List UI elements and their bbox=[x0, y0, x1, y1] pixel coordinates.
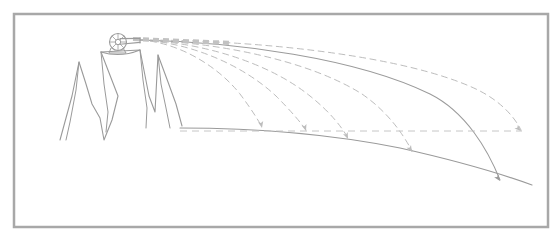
arrowhead-glyph bbox=[514, 125, 522, 133]
trajectory-arrowheads bbox=[258, 121, 523, 182]
cannon-wheel-spokes bbox=[110, 34, 126, 50]
trajectory-paths bbox=[140, 40, 521, 180]
figure-frame bbox=[14, 14, 548, 227]
trajectory-6-orbital-arrowhead bbox=[514, 125, 522, 133]
mountain-ridge-3 bbox=[140, 50, 147, 128]
trajectory-5-arrowhead bbox=[494, 174, 502, 182]
curved-earth-surface bbox=[180, 128, 532, 185]
arrowhead-glyph bbox=[494, 174, 502, 182]
cannon-barrel-lower-edge bbox=[120, 42, 140, 44]
trajectory-6-orbital bbox=[140, 40, 521, 130]
trajectory-1 bbox=[140, 40, 262, 127]
mountain-ridge-4 bbox=[158, 55, 170, 128]
figure-canvas bbox=[0, 0, 560, 242]
mountain-ridge-2 bbox=[101, 52, 108, 132]
trajectory-3 bbox=[140, 40, 348, 138]
mountain-range bbox=[60, 50, 182, 140]
cannon-spoke-6 bbox=[112, 36, 116, 40]
newton-cannonball-figure bbox=[0, 0, 560, 242]
cannon-spoke-4 bbox=[112, 44, 116, 48]
